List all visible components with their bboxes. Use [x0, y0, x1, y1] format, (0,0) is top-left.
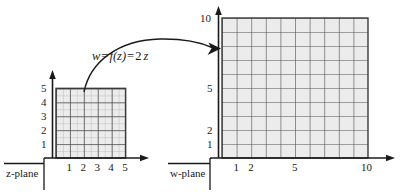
formula-equals-2: =	[126, 49, 135, 63]
w-plane-x-tick-2: 2	[248, 162, 254, 173]
w-plane-y-tick-1: 1	[207, 139, 213, 150]
w-plane-grid-region	[222, 18, 368, 158]
w-plane-x-tick-5: 5	[292, 162, 298, 173]
w-plane-y-axis	[215, 6, 222, 158]
z-plane-y-tick-3: 3	[41, 111, 47, 122]
figure-canvas	[0, 0, 407, 194]
z-plane-grid-region	[56, 88, 126, 158]
z-plane-y-tick-1: 1	[41, 139, 47, 150]
z-plane-x-tick-1: 1	[67, 162, 73, 173]
w-plane-y-tick-2: 2	[207, 125, 213, 136]
z-plane-y-axis	[49, 70, 56, 158]
z-plane-y-tick-4: 4	[41, 97, 47, 108]
z-plane-y-tick-5: 5	[41, 83, 47, 94]
formula-fz: f(z)	[109, 49, 126, 63]
z-plane-x-tick-2: 2	[81, 162, 87, 173]
z-plane-x-tick-3: 3	[94, 162, 100, 173]
z-plane-x-tick-5: 5	[122, 162, 128, 173]
mapping-formula: w=f(z)=2z	[92, 50, 148, 63]
conformal-mapping-figure: w=f(z)=2z z-plane w-plane 1 2 3 4 5 1 2 …	[0, 0, 407, 194]
z-plane-y-tick-2: 2	[41, 125, 47, 136]
w-plane-label: w-plane	[170, 168, 205, 179]
w-plane-y-tick-10: 10	[200, 13, 211, 24]
z-plane-x-tick-4: 4	[108, 162, 114, 173]
mapping-arrow	[84, 39, 221, 92]
formula-variable: z	[141, 49, 148, 63]
w-plane-y-tick-5: 5	[207, 83, 213, 94]
z-plane-label: z-plane	[6, 168, 38, 179]
w-plane-x-tick-1: 1	[234, 162, 240, 173]
w-plane-x-tick-10: 10	[361, 162, 372, 173]
